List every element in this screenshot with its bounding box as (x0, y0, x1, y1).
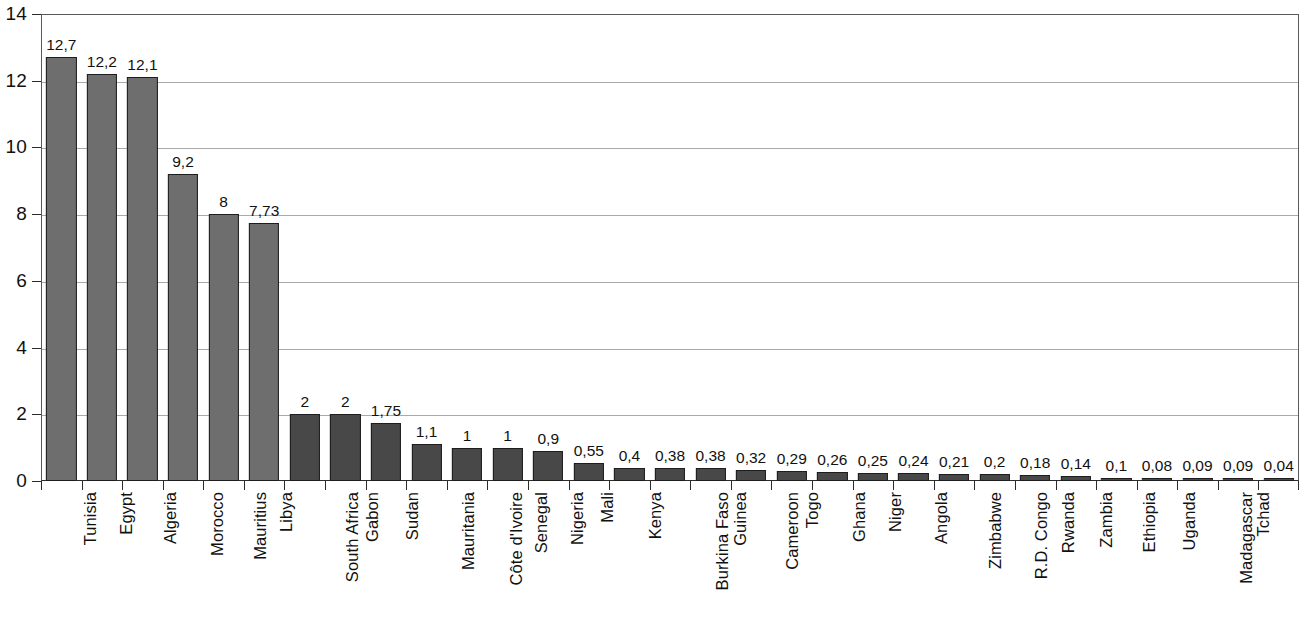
bar-value-label: 0,1 (1106, 457, 1128, 475)
y-axis-tick-label: 14 (5, 3, 27, 25)
x-axis-label-slot: Angola (893, 492, 934, 619)
x-axis-label-slot: Ghana (812, 492, 853, 619)
x-axis-label-slot: Uganda (1137, 492, 1178, 619)
bar-slot: 0,18 (1015, 14, 1056, 481)
bar-slot: 0,38 (650, 14, 691, 481)
bar-value-label: 9,2 (172, 153, 194, 171)
bar[interactable] (980, 474, 1010, 481)
x-axis-tick (244, 481, 245, 490)
bar-slot: 0,9 (528, 14, 569, 481)
bar-chart: 02468101214 12,712,212,19,287,73221,751,… (0, 0, 1302, 619)
bar[interactable] (371, 423, 401, 481)
bar-slot: 0,04 (1258, 14, 1299, 481)
bar-slot: 0,09 (1177, 14, 1218, 481)
bar[interactable] (655, 468, 685, 481)
x-axis-tick (569, 481, 570, 490)
bar-value-label: 0,32 (736, 449, 766, 467)
y-axis-tick (32, 81, 41, 82)
x-axis-tick (122, 481, 123, 490)
y-axis-tick (32, 214, 41, 215)
x-axis-label-slot: Tunisia (41, 492, 82, 619)
bar-value-label: 1 (463, 427, 472, 445)
bar[interactable] (290, 414, 320, 481)
bar-value-label: 2 (300, 393, 309, 411)
x-axis-label-slot: Kenya (609, 492, 650, 619)
bar-slot: 0,1 (1096, 14, 1137, 481)
x-axis-label-slot: Nigeria (528, 492, 569, 619)
bar[interactable] (898, 473, 928, 481)
bar[interactable] (939, 474, 969, 481)
x-axis-tick (609, 481, 610, 490)
bar-slot: 0,24 (893, 14, 934, 481)
bar-value-label: 0,18 (1020, 454, 1050, 472)
x-axis-label-slot: Rwanda (1015, 492, 1056, 619)
bar[interactable] (330, 414, 360, 481)
bar[interactable] (574, 463, 604, 481)
y-axis-tick-label: 12 (5, 70, 27, 92)
bar-slot: 2 (325, 14, 366, 481)
bar[interactable] (168, 174, 198, 481)
bar[interactable] (817, 472, 847, 481)
bar-slot: 1 (487, 14, 528, 481)
bar-value-label: 8 (219, 193, 228, 211)
bar-value-label: 0,14 (1061, 455, 1091, 473)
bar-value-label: 0,4 (619, 447, 641, 465)
x-axis-label-slot: Mauritius (203, 492, 244, 619)
bar-slot: 0,08 (1137, 14, 1178, 481)
y-axis-tick-label: 2 (16, 403, 27, 425)
bar[interactable] (127, 77, 157, 481)
bar[interactable] (777, 471, 807, 481)
bar-slot: 0,32 (731, 14, 772, 481)
bar[interactable] (411, 444, 441, 481)
x-axis-label-slot: Cameroon (731, 492, 772, 619)
bar[interactable] (695, 468, 725, 481)
y-axis: 02468101214 (0, 0, 41, 619)
x-axis-labels: TunisiaEgyptAlgeriaMoroccoMauritiusLibya… (41, 492, 1299, 619)
bar[interactable] (858, 473, 888, 481)
x-axis-label-slot: Burkina Faso (650, 492, 691, 619)
bar-slot: 0,4 (609, 14, 650, 481)
bar[interactable] (614, 468, 644, 481)
x-axis-tick (163, 481, 164, 490)
bar[interactable] (249, 223, 279, 481)
bar-slot: 12,1 (122, 14, 163, 481)
bar-slot: 12,2 (82, 14, 123, 481)
y-axis-tick (32, 348, 41, 349)
x-axis-tick (771, 481, 772, 490)
bar-slot: 8 (203, 14, 244, 481)
x-axis-label-slot: Tanzania (1258, 492, 1299, 619)
x-axis-tick (1015, 481, 1016, 490)
x-axis-label-slot: Zimbabwe (934, 492, 975, 619)
bar[interactable] (493, 448, 523, 481)
bar-value-label: 0,08 (1142, 457, 1172, 475)
bar-value-label: 0,21 (939, 453, 969, 471)
bar-slot: 9,2 (163, 14, 204, 481)
x-axis-label-slot: Mauritania (406, 492, 447, 619)
x-axis-tick (406, 481, 407, 490)
y-axis-tick (32, 147, 41, 148)
bar-value-label: 0,04 (1264, 457, 1294, 475)
bar[interactable] (46, 57, 76, 481)
x-axis-tick (447, 481, 448, 490)
x-axis-label-slot: Tchad (1218, 492, 1259, 619)
x-axis-tick (1298, 481, 1299, 490)
x-axis-label-slot: Libya (244, 492, 285, 619)
x-axis (41, 481, 1299, 491)
bar[interactable] (533, 451, 563, 481)
bar-slot: 0,09 (1218, 14, 1259, 481)
bar-value-label: 0,09 (1182, 457, 1212, 475)
bar-slot: 0,2 (974, 14, 1015, 481)
bar[interactable] (208, 214, 238, 481)
bar[interactable] (452, 448, 482, 481)
x-axis-tick (1177, 481, 1178, 490)
x-axis-tick (1096, 481, 1097, 490)
bar-slot: 0,38 (690, 14, 731, 481)
bar-value-label: 12,2 (87, 53, 117, 71)
bar[interactable] (736, 470, 766, 481)
bar[interactable] (87, 74, 117, 481)
x-axis-tick (284, 481, 285, 490)
x-axis-label-slot: Guinea (690, 492, 731, 619)
x-axis-tick (690, 481, 691, 490)
bar-value-label: 1 (503, 427, 512, 445)
x-axis-label-slot: Algeria (122, 492, 163, 619)
